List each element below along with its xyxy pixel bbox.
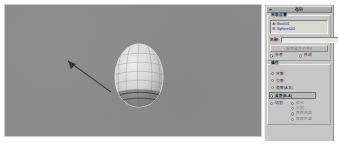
name-input[interactable] bbox=[281, 37, 338, 43]
operation-subtract-a-b[interactable]: 差集(A-B) bbox=[270, 85, 328, 90]
radio-dot-icon bbox=[291, 102, 294, 105]
cut-option-label: 移除内部 bbox=[296, 112, 312, 116]
cut-option-refine[interactable]: 优化 bbox=[291, 102, 328, 106]
3d-viewport[interactable] bbox=[4, 4, 262, 137]
radio-label: 移动 bbox=[304, 54, 312, 58]
cut-option-label: 移除外部 bbox=[296, 118, 312, 122]
panel-titlebar[interactable]: 布尔 bbox=[266, 6, 332, 13]
radio-dot-icon bbox=[271, 86, 274, 89]
mesh-object-egg[interactable] bbox=[113, 43, 165, 109]
operation-cut[interactable]: 切割 bbox=[270, 102, 283, 106]
radio-move[interactable]: 移动 bbox=[299, 54, 328, 58]
radio-dot-icon bbox=[271, 72, 274, 75]
radio-dot-icon bbox=[291, 112, 294, 115]
operation-intersection[interactable]: 交集 bbox=[270, 78, 328, 83]
arrow-pointer-icon bbox=[65, 57, 115, 97]
operands-listbox[interactable]: A: Box001 B: Sphere001 bbox=[270, 20, 328, 34]
radio-dot-icon bbox=[270, 54, 273, 57]
pick-group-title: 拾取设置 bbox=[270, 14, 288, 18]
radio-dot-icon bbox=[291, 118, 294, 121]
operation-label: 切割 bbox=[275, 102, 283, 106]
screenshot-root: 布尔 拾取设置 A: Box001 B: Sphere001 名称: 拾取操作对… bbox=[0, 0, 338, 147]
name-field-row: 名称: bbox=[270, 37, 328, 43]
reference-mode-row: 参考 移动 bbox=[270, 54, 328, 58]
name-label: 名称: bbox=[270, 37, 279, 42]
pick-boolean-group: 拾取设置 A: Box001 B: Sphere001 名称: 拾取操作对象B … bbox=[267, 15, 331, 61]
radio-dot-icon bbox=[291, 107, 294, 110]
operation-group-title: 操作 bbox=[270, 62, 280, 66]
operation-union[interactable]: 并集 bbox=[270, 71, 328, 76]
list-item[interactable]: B: Sphere001 bbox=[273, 27, 326, 32]
pick-operand-b-button[interactable]: 拾取操作对象B bbox=[270, 45, 328, 52]
cut-sub-options: 优化 分割 移除内部 移除外部 bbox=[285, 102, 328, 122]
radio-dot-icon bbox=[270, 94, 273, 97]
panel-title: 布尔 bbox=[267, 7, 331, 12]
operation-label: 差集(B-A) bbox=[275, 93, 292, 98]
cut-option-remove-outside[interactable]: 移除外部 bbox=[291, 118, 328, 122]
operation-cut-block: 切割 优化 分割 移除内部 bbox=[270, 102, 328, 122]
page-bottom-strip bbox=[0, 141, 338, 147]
operation-label: 交集 bbox=[276, 78, 284, 83]
operation-label: 并集 bbox=[276, 71, 284, 76]
operation-subtract-b-a[interactable]: 差集(B-A) bbox=[269, 92, 316, 99]
radio-dot-icon bbox=[270, 102, 273, 105]
cut-option-label: 优化 bbox=[296, 102, 304, 106]
boolean-command-panel: 布尔 拾取设置 A: Box001 B: Sphere001 名称: 拾取操作对… bbox=[264, 4, 334, 143]
radio-label: 参考 bbox=[275, 54, 283, 58]
radio-dot-icon bbox=[271, 79, 274, 82]
cut-option-remove-inside[interactable]: 移除内部 bbox=[291, 112, 328, 116]
radio-dot-icon bbox=[299, 54, 302, 57]
radio-reference[interactable]: 参考 bbox=[270, 54, 299, 58]
operation-group: 操作 并集 交集 差集(A-B) 差集(B-A) 切割 bbox=[267, 64, 331, 126]
operation-label: 差集(A-B) bbox=[276, 85, 293, 90]
